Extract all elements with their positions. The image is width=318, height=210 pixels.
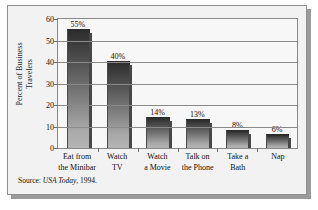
x-axis-category-label-line: Watch xyxy=(137,152,177,163)
y-axis-tick-mark xyxy=(54,84,58,85)
x-axis-category-label: WatchTV xyxy=(97,152,137,173)
x-axis-category-label: Eat fromthe Minibar xyxy=(57,152,97,173)
x-axis-category-label-line: Talk on xyxy=(178,152,218,163)
bar[interactable] xyxy=(186,119,209,148)
y-axis-title-line-1: Percent of Business xyxy=(15,42,24,105)
bar-value-label: 14% xyxy=(138,108,178,117)
x-axis-category-label-line: TV xyxy=(97,163,137,174)
y-axis-title-line-2: Travelers xyxy=(25,13,35,135)
bar[interactable] xyxy=(266,134,289,148)
x-axis-category-labels: Eat fromthe MinibarWatchTVWatcha MovieTa… xyxy=(57,152,298,178)
bar-side-shadow xyxy=(129,65,132,148)
y-axis-tick-label: 50 xyxy=(46,36,54,45)
x-axis-category-label-line: Take a xyxy=(218,152,258,163)
x-axis-category-label-line: Nap xyxy=(258,152,298,163)
bar[interactable] xyxy=(226,130,249,148)
x-axis-category-label-line: a Movie xyxy=(137,163,177,174)
bar-chart-figure: Percent of Business Travelers 55%40%14%1… xyxy=(0,0,318,210)
x-axis-category-label-line: the Phone xyxy=(178,163,218,174)
y-axis-tick-mark xyxy=(54,19,58,20)
bar-side-shadow xyxy=(89,33,92,148)
bar-side-shadow xyxy=(169,121,172,148)
gridline xyxy=(58,84,297,85)
y-axis-tick-mark xyxy=(54,127,58,128)
y-axis-tick-label: 60 xyxy=(46,15,54,24)
source-prefix: Source: xyxy=(18,176,43,185)
y-axis-tick-mark xyxy=(54,41,58,42)
y-axis-tick-label: 40 xyxy=(46,58,54,67)
y-axis-tick-mark xyxy=(54,62,58,63)
source-suffix: , 1994. xyxy=(76,176,97,185)
bar-value-label: 13% xyxy=(178,110,218,119)
source-note: Source: USA Today, 1994. xyxy=(18,176,97,185)
bar-side-shadow xyxy=(288,138,291,148)
gridline xyxy=(58,127,297,128)
source-publication: USA Today xyxy=(43,176,77,185)
bar-value-label: 40% xyxy=(98,52,138,61)
gridline xyxy=(58,41,297,42)
y-axis-tick-mark xyxy=(54,105,58,106)
y-axis-title: Percent of Business Travelers xyxy=(15,13,35,135)
x-axis-category-label: Watcha Movie xyxy=(137,152,177,173)
plot-area: 55%40%14%13%8%6% 0102030405060 xyxy=(57,18,298,149)
bar-value-label: 8% xyxy=(217,121,257,130)
bar[interactable] xyxy=(146,117,169,148)
chart-panel: Percent of Business Travelers 55%40%14%1… xyxy=(7,5,307,195)
x-axis-category-label-line: the Minibar xyxy=(57,163,97,174)
bar-value-label: 55% xyxy=(58,20,98,29)
y-axis-tick-label: 10 xyxy=(46,122,54,131)
x-axis-category-label: Take aBath xyxy=(218,152,258,173)
gridline xyxy=(58,62,297,63)
y-axis-tick-label: 20 xyxy=(46,101,54,110)
x-axis-category-label-line: Watch xyxy=(97,152,137,163)
gridline xyxy=(58,105,297,106)
y-axis-tick-label: 30 xyxy=(46,79,54,88)
y-axis-tick-mark xyxy=(54,148,58,149)
x-axis-category-label: Nap xyxy=(258,152,298,163)
x-axis-category-label-line: Eat from xyxy=(57,152,97,163)
bar[interactable] xyxy=(67,29,90,148)
x-axis-category-label-line: Bath xyxy=(218,163,258,174)
x-axis-category-label: Talk onthe Phone xyxy=(178,152,218,173)
bar-side-shadow xyxy=(248,134,251,148)
